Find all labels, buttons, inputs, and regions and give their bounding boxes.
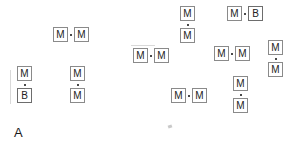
unit-box-m: M xyxy=(268,40,283,55)
unit-box-m: M xyxy=(233,76,248,91)
bond-dot-vertical xyxy=(187,24,189,26)
panel-label-a: A xyxy=(14,126,23,139)
unit-box-m: M xyxy=(227,6,242,21)
bond-dot-horizontal xyxy=(150,55,152,57)
unit-box-m: M xyxy=(268,62,283,77)
unit-box-m: M xyxy=(214,46,229,61)
bond-dot-vertical xyxy=(240,94,242,96)
unit-box-m: M xyxy=(133,48,148,63)
unit-box-m: M xyxy=(192,88,207,103)
scan-line-artifact xyxy=(131,45,155,46)
unit-box-m: M xyxy=(233,98,248,113)
unit-box-m: M xyxy=(74,27,89,42)
unit-box-m: M xyxy=(70,66,85,81)
unit-box-m: M xyxy=(180,6,195,21)
unit-box-m: M xyxy=(235,46,250,61)
unit-box-b: B xyxy=(248,6,263,21)
unit-box-m: M xyxy=(154,48,169,63)
unit-box-m: M xyxy=(53,27,68,42)
unit-box-m: M xyxy=(180,28,195,43)
bond-dot-vertical xyxy=(77,84,79,86)
bond-dot-horizontal xyxy=(188,95,190,97)
bond-dot-vertical xyxy=(24,84,26,86)
scan-line-artifact xyxy=(10,70,11,104)
scan-speck xyxy=(168,124,173,128)
bond-dot-vertical xyxy=(275,58,277,60)
unit-box-b: B xyxy=(17,88,32,103)
figure-panel: A MMMBMMMMMBMMMMMMMMMM xyxy=(0,0,299,146)
bond-dot-horizontal xyxy=(70,34,72,36)
unit-box-m: M xyxy=(171,88,186,103)
bond-dot-horizontal xyxy=(231,53,233,55)
bond-dot-horizontal xyxy=(244,13,246,15)
unit-box-m: M xyxy=(70,88,85,103)
unit-box-m: M xyxy=(17,66,32,81)
